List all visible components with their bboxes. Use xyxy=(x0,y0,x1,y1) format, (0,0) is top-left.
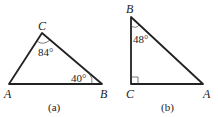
triangle-a-shape xyxy=(9,33,102,84)
angle-label-c: 84° xyxy=(38,46,53,58)
vertex-label-c: C xyxy=(38,19,47,33)
vertex-label-b: B xyxy=(100,87,108,101)
vertex-label-a2: A xyxy=(202,87,211,101)
right-angle-marker xyxy=(131,77,138,84)
diagram-canvas: C A B 84° 40° (a) B C A 48° (b) xyxy=(0,0,218,117)
vertex-label-b2: B xyxy=(126,2,134,16)
vertex-label-c2: C xyxy=(126,87,135,101)
angle-arc-b2 xyxy=(131,25,139,27)
triangle-b: B C A 48° (b) xyxy=(126,2,211,114)
angle-label-b2: 48° xyxy=(133,33,148,45)
triangle-a: C A B 84° 40° (a) xyxy=(3,19,108,114)
angle-arc-c xyxy=(37,40,50,43)
vertex-label-a: A xyxy=(3,87,12,101)
caption-b: (b) xyxy=(161,101,174,114)
caption-a: (a) xyxy=(48,101,61,114)
angle-label-b: 40° xyxy=(71,72,86,84)
triangle-b-shape xyxy=(131,17,203,84)
